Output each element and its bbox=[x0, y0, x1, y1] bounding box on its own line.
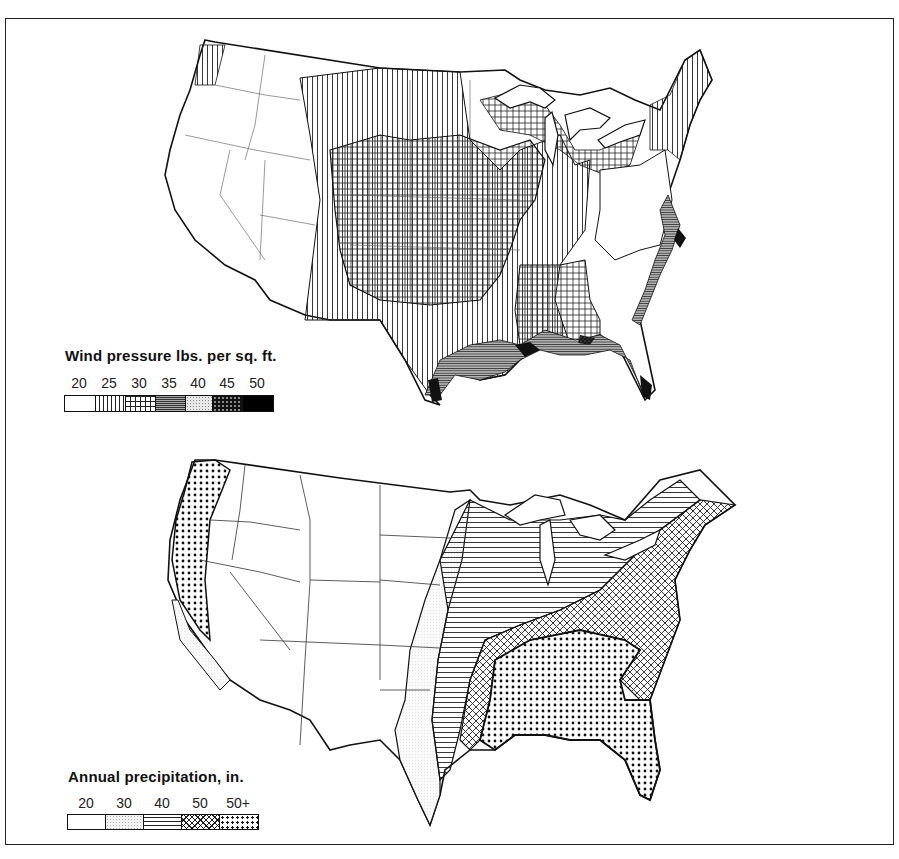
precip-legend-title: Annual precipitation, in. bbox=[68, 768, 244, 785]
precipitation-map bbox=[168, 460, 735, 825]
wind-swatch-45 bbox=[213, 396, 243, 411]
wind-legend-title: Wind pressure lbs. per sq. ft. bbox=[65, 347, 277, 364]
wind-legend-labels: 20 25 30 35 40 45 50 bbox=[64, 375, 272, 391]
precip-zone-50plus-south bbox=[480, 630, 660, 800]
precip-legend-bar bbox=[67, 814, 259, 830]
wind-legend-label: 50 bbox=[242, 375, 272, 391]
precip-legend-label: 30 bbox=[105, 795, 143, 811]
wind-legend-label: 30 bbox=[124, 375, 154, 391]
wind-swatch-40 bbox=[186, 396, 213, 411]
wind-swatch-20 bbox=[65, 396, 96, 411]
precip-legend-label: 50 bbox=[181, 795, 219, 811]
wind-swatch-50 bbox=[243, 396, 273, 411]
precip-legend-label: 20 bbox=[67, 795, 105, 811]
precip-swatch-40 bbox=[144, 815, 182, 829]
wind-swatch-30 bbox=[126, 396, 156, 411]
precip-swatch-50plus bbox=[220, 815, 258, 829]
precip-swatch-20 bbox=[68, 815, 106, 829]
precip-swatch-50 bbox=[182, 815, 221, 829]
wind-legend-label: 35 bbox=[154, 375, 184, 391]
wind-legend-label: 20 bbox=[64, 375, 94, 391]
wind-legend-label: 40 bbox=[184, 375, 212, 391]
wind-swatch-35 bbox=[156, 396, 186, 411]
wind-legend-label: 25 bbox=[94, 375, 124, 391]
precip-swatch-30 bbox=[106, 815, 145, 829]
precip-legend-label: 50+ bbox=[219, 795, 257, 811]
precip-legend-labels: 20 30 40 50 50+ bbox=[67, 795, 257, 811]
precip-legend-label: 40 bbox=[143, 795, 181, 811]
maps-canvas bbox=[0, 0, 899, 859]
wind-legend-label: 45 bbox=[212, 375, 242, 391]
wind-legend-bar bbox=[64, 395, 274, 412]
wind-swatch-25 bbox=[96, 396, 126, 411]
